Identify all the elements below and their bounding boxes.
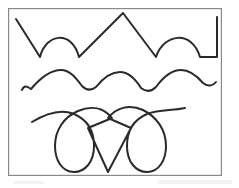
rectangular-border-frame [9,9,222,176]
scan-smudge-bottom-left [14,181,44,184]
figure-canvas [0,0,239,188]
scan-smudge-bottom-right [158,180,232,184]
handwriting-figure [0,0,239,188]
